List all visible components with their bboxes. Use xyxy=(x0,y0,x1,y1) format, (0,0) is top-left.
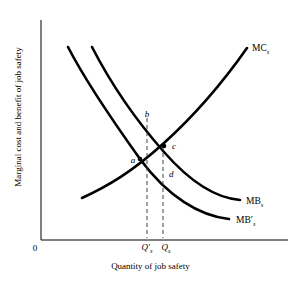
y-axis-label: Marginal cost and benefit of job safety xyxy=(13,17,23,217)
tick-q-prime-s-sub: s xyxy=(150,247,153,254)
tick-label-q-s: Qs xyxy=(161,242,171,254)
tick-label-q-prime-s: Q′s xyxy=(142,242,153,254)
point-label-d: d xyxy=(169,169,174,179)
point-marker-c xyxy=(162,144,167,149)
point-label-b: b xyxy=(145,109,150,119)
curve-label-mb-prime-s-main: MB′ xyxy=(236,215,253,225)
curve-label-mb-s-main: MB xyxy=(246,196,261,206)
point-label-c: c xyxy=(172,141,176,151)
chart-plot-area: b a c d MCs MBs MB′s Q′s Qs 0 xyxy=(0,0,301,281)
curve-label-mc-s-sub: s xyxy=(267,48,270,55)
point-marker-a xyxy=(138,157,143,162)
chart-figure: b a c d MCs MBs MB′s Q′s Qs 0 Quantity o… xyxy=(0,0,301,281)
origin-label: 0 xyxy=(33,243,38,253)
curve-label-mb-s: MBs xyxy=(246,196,264,208)
curve-label-mc-s-main: MC xyxy=(252,43,267,53)
x-axis-label: Quantity of job safety xyxy=(0,261,301,271)
curve-label-mb-s-sub: s xyxy=(261,201,264,208)
tick-q-s-sub: s xyxy=(168,247,171,254)
curve-label-mb-prime-s-sub: s xyxy=(253,220,256,227)
curve-mc-s xyxy=(82,48,247,198)
chart-axes xyxy=(41,20,288,240)
curve-label-mc-s: MCs xyxy=(252,43,270,55)
point-label-a: a xyxy=(131,155,136,165)
curve-label-mb-prime-s: MB′s xyxy=(236,215,256,227)
